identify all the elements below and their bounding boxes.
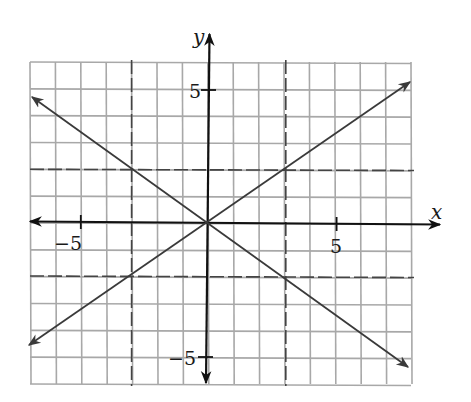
grid-line-horizontal (30, 116, 411, 118)
x-tick-label-neg5: −5 (54, 232, 82, 254)
grid-line-horizontal (30, 357, 411, 359)
line-falling (32, 97, 408, 367)
x-tick-label-pos5: 5 (330, 235, 342, 257)
grid-line-horizontal (30, 250, 411, 252)
y-tick-label-neg5: −5 (168, 347, 196, 369)
y-axis-label: y (192, 25, 205, 49)
y-tick-label-pos5: 5 (189, 80, 201, 102)
grid-line-horizontal (30, 384, 411, 386)
grid-line-horizontal (30, 143, 411, 145)
grid-line-vertical (386, 62, 387, 384)
x-axis-label: x (431, 200, 442, 224)
grid-line-horizontal (30, 196, 411, 198)
grid-line-horizontal (30, 89, 411, 91)
coordinate-graph: y x −5 5 5 −5 (0, 0, 471, 402)
grid-line-vertical (411, 62, 412, 384)
grid-line-horizontal (30, 330, 411, 332)
x-axis (30, 222, 440, 225)
grid-line-horizontal (30, 62, 411, 64)
